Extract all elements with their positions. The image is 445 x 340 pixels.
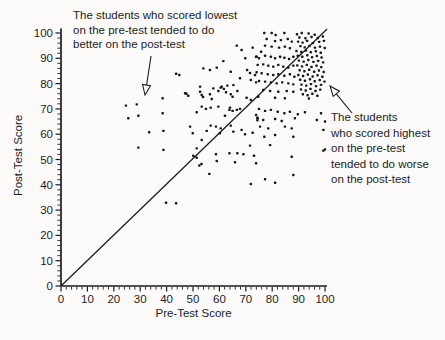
data-point [318, 41, 320, 43]
data-point [192, 155, 194, 157]
data-point [301, 56, 303, 58]
data-point [244, 133, 246, 135]
data-point [283, 75, 285, 77]
data-point [323, 40, 325, 42]
data-point [287, 38, 289, 40]
data-point [281, 81, 283, 83]
data-point [280, 39, 282, 41]
data-point [201, 105, 203, 107]
data-point [250, 183, 252, 185]
data-point [244, 57, 246, 59]
data-point [321, 76, 323, 78]
data-point [267, 127, 269, 129]
data-point [270, 109, 272, 111]
data-point [322, 61, 324, 63]
data-point [279, 56, 281, 58]
data-point [260, 51, 262, 53]
data-point [274, 34, 276, 36]
data-point [239, 108, 241, 110]
data-point [219, 132, 221, 134]
data-point [304, 37, 306, 39]
left-arrow-shaft [147, 56, 151, 85]
data-point [165, 202, 167, 204]
data-point [289, 73, 291, 75]
data-point [259, 125, 261, 127]
data-point [209, 69, 211, 71]
data-point [272, 65, 274, 67]
data-point [232, 130, 234, 132]
y-tick-label: 70 [40, 103, 53, 115]
data-point [292, 56, 294, 58]
data-point [275, 82, 277, 84]
data-point [251, 131, 253, 133]
data-point [206, 130, 208, 132]
data-point [302, 60, 304, 62]
data-point [286, 90, 288, 92]
data-point [161, 97, 163, 99]
data-point [316, 95, 318, 97]
data-point [232, 84, 234, 86]
data-point [300, 51, 302, 53]
data-point [281, 120, 283, 122]
x-tick-label: 50 [187, 293, 200, 305]
data-point [255, 81, 257, 83]
data-point [306, 94, 308, 96]
data-point [267, 64, 269, 66]
data-point [226, 84, 228, 86]
data-point [310, 36, 312, 38]
data-point [301, 41, 303, 43]
data-point [162, 149, 164, 151]
data-point [316, 119, 318, 121]
data-point [230, 71, 232, 73]
data-point [230, 93, 232, 95]
open-arrowhead-up-left-icon [330, 86, 339, 96]
data-point [288, 58, 290, 60]
data-point [136, 103, 138, 105]
data-point [249, 144, 251, 146]
annotation-line: on the pre-test [331, 141, 430, 157]
data-point [305, 84, 307, 86]
data-point [316, 55, 318, 57]
data-point [229, 106, 231, 108]
data-point [307, 59, 309, 61]
data-point [264, 44, 266, 46]
data-point [220, 127, 222, 129]
data-point [256, 117, 258, 119]
data-point [287, 82, 289, 84]
data-point [305, 49, 307, 51]
data-point [225, 91, 227, 93]
data-point [319, 88, 321, 90]
data-point [208, 173, 210, 175]
data-point [202, 96, 204, 98]
data-point [322, 71, 324, 73]
data-point [274, 97, 276, 99]
data-point [195, 147, 197, 149]
data-point [242, 153, 244, 155]
data-point [272, 74, 274, 76]
y-tick-label: 30 [40, 204, 53, 216]
data-point [306, 64, 308, 66]
data-point [274, 118, 276, 120]
data-point [305, 89, 307, 91]
data-point [300, 83, 302, 85]
data-point [314, 34, 316, 36]
data-point [187, 95, 189, 97]
data-point [162, 130, 164, 132]
x-tick-label: 60 [213, 293, 226, 305]
data-point [223, 88, 225, 90]
data-point [304, 111, 306, 113]
data-point [289, 47, 291, 49]
data-point [297, 55, 299, 57]
data-point [277, 110, 279, 112]
data-point [303, 70, 305, 72]
data-point [297, 74, 299, 76]
data-point [231, 110, 233, 112]
data-point [320, 112, 322, 114]
data-point [270, 81, 272, 83]
data-point [199, 85, 201, 87]
x-tick-label: 80 [266, 293, 279, 305]
data-point [302, 75, 304, 77]
data-point [209, 124, 211, 126]
data-point [258, 108, 260, 110]
data-point [236, 152, 238, 154]
